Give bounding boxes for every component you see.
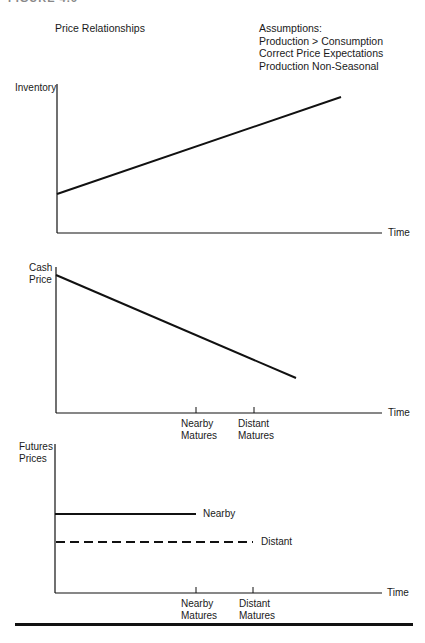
futures-y-label-line2: Prices bbox=[19, 453, 47, 465]
cash-price-chart bbox=[56, 267, 382, 413]
cash-x-label: Time bbox=[388, 407, 410, 419]
matures-text: Matures bbox=[239, 610, 275, 622]
cash-y-label-line2: Price bbox=[29, 274, 52, 286]
matures-text: Matures bbox=[181, 430, 217, 442]
distant-text: Distant bbox=[239, 598, 275, 610]
cash-price-line bbox=[56, 275, 296, 378]
cash-y-label-line1: Cash bbox=[29, 262, 52, 274]
matures-text: Matures bbox=[238, 430, 274, 442]
bottom-rule bbox=[15, 623, 413, 626]
futures-nearby-matures-label: Nearby Matures bbox=[181, 598, 217, 622]
cash-nearby-matures-label: Nearby Matures bbox=[181, 418, 217, 442]
distant-text: Distant bbox=[238, 418, 274, 430]
nearby-text: Nearby bbox=[181, 598, 217, 610]
futures-y-label-line1: Futures bbox=[19, 441, 53, 453]
charts-canvas bbox=[0, 0, 425, 643]
nearby-text: Nearby bbox=[181, 418, 217, 430]
futures-distant-matures-label: Distant Matures bbox=[239, 598, 275, 622]
nearby-series-label: Nearby bbox=[203, 508, 235, 520]
distant-series-label: Distant bbox=[261, 536, 292, 548]
inventory-y-label: Inventory bbox=[15, 82, 56, 94]
inventory-chart bbox=[57, 84, 382, 233]
matures-text: Matures bbox=[181, 610, 217, 622]
futures-x-label: Time bbox=[387, 587, 409, 599]
inventory-line bbox=[57, 97, 341, 194]
cash-distant-matures-label: Distant Matures bbox=[238, 418, 274, 442]
inventory-x-label: Time bbox=[388, 227, 410, 239]
